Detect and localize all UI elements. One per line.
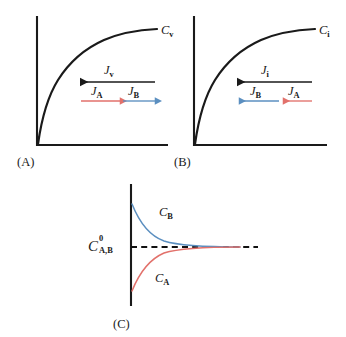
panel-a-flux-b-label: JB [128, 84, 140, 100]
panel-c-curve-ca-label: CA [155, 271, 169, 287]
panel-c-curve-cb [132, 204, 240, 247]
panel-c-reference-level-label: C 0 A,B [88, 234, 113, 255]
diagram-canvas: Cv Jv JA JB (A) Ci [0, 0, 346, 337]
panel-a-curve-label: Cv [161, 23, 174, 39]
panel-b-flux-b-label: JB [250, 84, 262, 100]
panel-b-tag: (B) [174, 155, 191, 169]
panel-b: Ci Ji JB JA (B) [174, 16, 330, 169]
panel-b-flux-i-label: Ji [261, 63, 270, 79]
panel-a: Cv Jv JA JB (A) [17, 16, 174, 169]
figure-root: Cv Jv JA JB (A) Ci [0, 0, 346, 337]
level-label-base: C [88, 238, 99, 254]
panel-c: CB CA C 0 A,B (C) [88, 184, 258, 331]
panel-b-curve-label: Ci [319, 23, 330, 39]
panel-a-curve-cv [38, 29, 157, 144]
panel-a-tag: (A) [17, 155, 34, 169]
level-label-subscript: A,B [99, 246, 113, 255]
panel-c-curve-ca [132, 247, 240, 291]
panel-a-flux-v-label: Jv [104, 63, 115, 79]
panel-a-flux-a-label: JA [91, 84, 103, 100]
panel-c-tag: (C) [113, 317, 130, 331]
panel-b-flux-a-label: JA [288, 84, 300, 100]
level-label-superscript: 0 [99, 234, 103, 243]
panel-c-curve-cb-label: CB [159, 205, 173, 221]
